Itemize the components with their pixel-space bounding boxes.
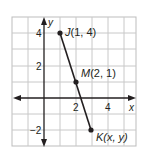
point-k-label: K(x, y)	[96, 131, 128, 143]
coordinate-plane-svg: y x 2 4 4 2 −2 J(1, 4) M(2, 1) K(x, y)	[0, 0, 144, 153]
coordinate-plane-figure: y x 2 4 4 2 −2 J(1, 4) M(2, 1) K(x, y)	[0, 0, 144, 153]
y-axis-label: y	[47, 17, 54, 28]
y-tick-4: 4	[36, 28, 42, 39]
y-tick-neg2: −2	[30, 125, 42, 136]
x-axis-label: x	[128, 102, 135, 113]
point-m-label: M(2, 1)	[81, 67, 116, 79]
x-tick-4: 4	[105, 102, 111, 113]
x-tick-2: 2	[73, 102, 79, 113]
point-k	[88, 127, 93, 132]
y-tick-2: 2	[36, 61, 42, 72]
point-j-label: J(1, 4)	[64, 26, 96, 38]
point-j	[57, 30, 62, 35]
point-m	[73, 79, 78, 84]
